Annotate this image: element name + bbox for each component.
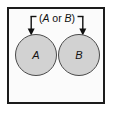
union-annotation: (A or B) [0, 12, 114, 38]
set-circle-a: A [15, 34, 57, 76]
union-label: (A or B) [0, 12, 114, 25]
union-close-paren: ) [72, 12, 76, 24]
set-label-b: B [75, 50, 83, 61]
set-label-a: A [32, 50, 40, 61]
venn-diagram-figure: (A or B) A B [0, 0, 114, 113]
union-set-b: B [65, 12, 72, 24]
set-circle-b: B [58, 34, 100, 76]
union-connector: or [49, 12, 64, 24]
